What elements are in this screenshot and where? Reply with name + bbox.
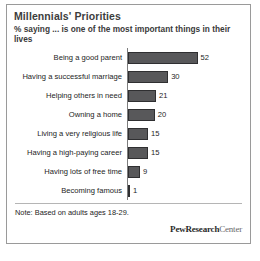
source-brand: PewResearch — [170, 224, 219, 234]
chart-note: Note: Based on adults ages 18-29. — [15, 208, 242, 217]
bar — [128, 185, 130, 197]
table-row: Having a successful marriage 30 — [14, 67, 244, 86]
bar — [128, 109, 155, 121]
category-label: Owning a home — [14, 110, 127, 119]
bar — [128, 147, 148, 159]
bar-track: 15 — [127, 124, 244, 143]
chart-subtitle: % saying ... is one of the most importan… — [14, 24, 242, 44]
table-row: Having a high-paying career 15 — [14, 143, 244, 162]
bar-track: 30 — [127, 67, 244, 86]
table-row: Being a good parent 52 — [14, 48, 244, 67]
source-attribution: PewResearchCenter — [15, 224, 242, 234]
source-sub: Center — [219, 224, 242, 234]
category-label: Having a successful marriage — [14, 72, 127, 81]
category-label: Being a good parent — [14, 53, 127, 62]
chart-header: Millennials' Priorities % saying ... is … — [7, 5, 250, 44]
bar-value-label: 21 — [159, 91, 167, 100]
bar-value-label: 9 — [143, 167, 147, 176]
bar-track: 15 — [127, 143, 244, 162]
bar — [128, 128, 148, 140]
bar-value-label: 15 — [151, 129, 159, 138]
page-title: Millennials' Priorities — [14, 10, 243, 22]
table-row: Having lots of free time 9 — [14, 162, 244, 181]
bar-chart-plot: Being a good parent 52 Having a successf… — [7, 48, 250, 200]
category-label: Having lots of free time — [14, 167, 127, 176]
bar-value-label: 15 — [151, 148, 159, 157]
bar-track: 21 — [127, 86, 244, 105]
bar — [128, 52, 198, 64]
bar-track: 20 — [127, 105, 244, 124]
category-label: Becoming famous — [14, 186, 127, 195]
category-label: Helping others in need — [14, 91, 127, 100]
bar — [128, 90, 156, 102]
bar-track: 1 — [127, 181, 244, 200]
chart-figure: Millennials' Priorities % saying ... is … — [6, 4, 251, 244]
bar-value-label: 30 — [171, 72, 179, 81]
table-row: Becoming famous 1 — [14, 181, 244, 200]
bar-track: 9 — [127, 162, 244, 181]
table-row: Owning a home 20 — [14, 105, 244, 124]
table-row: Helping others in need 21 — [14, 86, 244, 105]
bar — [128, 166, 140, 178]
bar-value-label: 52 — [201, 53, 209, 62]
bar-value-label: 20 — [158, 110, 166, 119]
category-label: Living a very religious life — [14, 129, 127, 138]
bar-value-label: 1 — [133, 186, 137, 195]
table-row: Living a very religious life 15 — [14, 124, 244, 143]
bar-track: 52 — [127, 48, 244, 67]
category-label: Having a high-paying career — [14, 148, 127, 157]
chart-footer: Note: Based on adults ages 18-29. PewRes… — [7, 204, 250, 234]
bar — [128, 71, 168, 83]
